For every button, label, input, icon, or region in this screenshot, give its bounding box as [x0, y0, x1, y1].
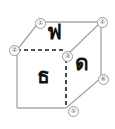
top-face-glyph: ฟ — [47, 22, 62, 43]
front-face-glyph: ธ — [37, 66, 50, 87]
vertex-label-4: ④ — [97, 17, 108, 28]
vertex-label-2: ② — [9, 45, 20, 56]
labeled-cube-diagram: ฟ ธ ด ① ② ③ ④ ⑤ ⑥ — [0, 0, 115, 129]
vertex-label-6: ⑥ — [98, 74, 109, 85]
edge-v6-to-v5 — [66, 78, 101, 108]
vertex-label-3: ③ — [62, 51, 73, 62]
right-face-glyph: ด — [75, 53, 89, 74]
vertex-label-1: ① — [35, 18, 46, 29]
vertex-label-5: ⑤ — [68, 106, 79, 117]
